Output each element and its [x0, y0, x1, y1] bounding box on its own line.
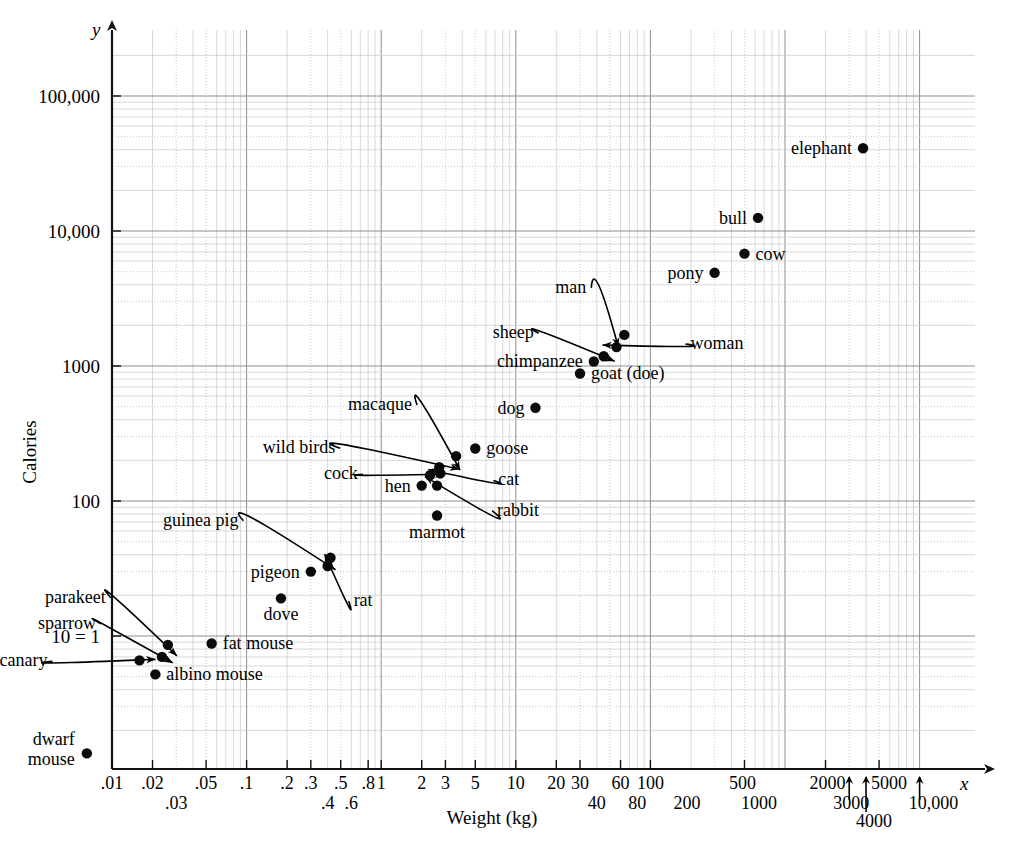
data-point-label: cat [498, 469, 519, 489]
y-tick-label: 1000 [62, 356, 100, 377]
data-point [417, 480, 427, 490]
data-point [739, 248, 749, 258]
x-tick-label: 5000 [871, 773, 907, 793]
data-point [619, 330, 629, 340]
x-tick-label: .1 [240, 773, 254, 793]
x-tick-label: 40 [588, 793, 606, 813]
data-point [432, 510, 442, 520]
x-tick-label: .8 [361, 773, 375, 793]
data-point [157, 652, 167, 662]
data-point [611, 342, 621, 352]
data-point-label: pony [668, 263, 704, 283]
x-tick-label: 10,000 [909, 793, 959, 813]
x-tick-label: 60 [612, 773, 630, 793]
data-point [451, 451, 461, 461]
x-tick-label: 80 [628, 793, 646, 813]
data-point-labels: dwarfmousecanaryalbino mousesparrowparak… [0, 138, 852, 769]
data-point-label: goat (doe) [591, 363, 664, 384]
data-point-label: rabbit [497, 500, 539, 520]
y-axis-title: Calories [19, 420, 40, 483]
data-point [435, 468, 445, 478]
data-point-label: guinea pig [163, 510, 238, 530]
data-point-label: hen [385, 476, 411, 496]
data-point-label: goose [486, 438, 528, 458]
data-point-label: dwarf [33, 729, 75, 749]
data-point [163, 640, 173, 650]
data-point-label: mouse [28, 749, 75, 769]
data-point [530, 403, 540, 413]
x-tick-label: 1 [377, 773, 386, 793]
data-point-label: dog [497, 398, 524, 418]
metabolism-scatter-chart: .01.02.03.05.1.2.3.4.5.6.812351020304060… [0, 0, 1011, 846]
data-point [134, 655, 144, 665]
x-tick-label: 10 [507, 773, 525, 793]
data-point-label: fat mouse [223, 633, 293, 653]
x-tick-label: .02 [141, 773, 164, 793]
x-tick-label: 500 [729, 773, 756, 793]
data-point-label: sparrow [38, 613, 96, 633]
data-point [82, 748, 92, 758]
data-point [276, 593, 286, 603]
data-point [206, 638, 216, 648]
x-axis-title: Weight (kg) [447, 807, 538, 829]
y-axis-tick-labels: 10 = 1100100010,000100,000 [38, 86, 121, 647]
x-tick-label: 30 [571, 773, 589, 793]
plot-canvas: .01.02.03.05.1.2.3.4.5.6.812351020304060… [0, 0, 1011, 846]
x-tick-label: .5 [334, 773, 348, 793]
y-axis-variable: y [90, 19, 101, 40]
x-tick-label: .2 [280, 773, 294, 793]
data-point-label: elephant [791, 138, 852, 158]
x-tick-label: .01 [101, 773, 124, 793]
data-point [306, 566, 316, 576]
label-leader [591, 279, 618, 347]
data-point-label: cow [755, 244, 785, 264]
data-point-label: dove [263, 604, 298, 624]
data-point-label: chimpanzee [497, 351, 583, 371]
x-tick-label: 1000 [741, 793, 777, 813]
x-tick-label: .3 [304, 773, 318, 793]
x-tick-label: 2000 [810, 773, 846, 793]
x-tick-label: .6 [345, 793, 359, 813]
data-point [470, 443, 480, 453]
data-point-label: man [555, 277, 586, 297]
y-tick-label: 100 [72, 491, 101, 512]
data-point [599, 351, 609, 361]
x-tick-label: .03 [165, 793, 188, 813]
data-point-label: parakeet [45, 587, 106, 607]
data-point [858, 143, 868, 153]
x-tick-label: .05 [195, 773, 218, 793]
x-tick-label: 3000 [833, 793, 869, 813]
data-point [325, 553, 335, 563]
data-point-label: pigeon [251, 562, 300, 582]
data-point [150, 669, 160, 679]
data-point [753, 213, 763, 223]
x-tick-label: 20 [547, 773, 565, 793]
x-tick-label: 4000 [856, 811, 892, 831]
x-tick-label: 2 [417, 773, 426, 793]
data-point [709, 268, 719, 278]
data-point-label: wild birds [263, 437, 336, 457]
data-point-label: macaque [348, 394, 412, 414]
x-tick-label: 3 [441, 773, 450, 793]
x-tick-label: 5 [471, 773, 480, 793]
data-point [425, 470, 435, 480]
data-point-label: albino mouse [166, 664, 263, 684]
data-point [432, 480, 442, 490]
x-axis-variable: x [959, 773, 969, 794]
data-point-label: bull [719, 208, 747, 228]
data-point-label: sheep [493, 322, 534, 342]
x-tick-label: 200 [673, 793, 700, 813]
data-point-label: marmot [409, 522, 465, 542]
data-point-label: rat [354, 590, 373, 610]
y-tick-label: 100,000 [38, 86, 100, 107]
data-point-label: canary [0, 650, 47, 670]
x-tick-label: .4 [321, 793, 335, 813]
y-tick-label: 10,000 [48, 221, 100, 242]
data-point-label: cock [324, 463, 358, 483]
x-tick-label: 100 [637, 773, 664, 793]
data-point-label: woman [691, 333, 744, 353]
